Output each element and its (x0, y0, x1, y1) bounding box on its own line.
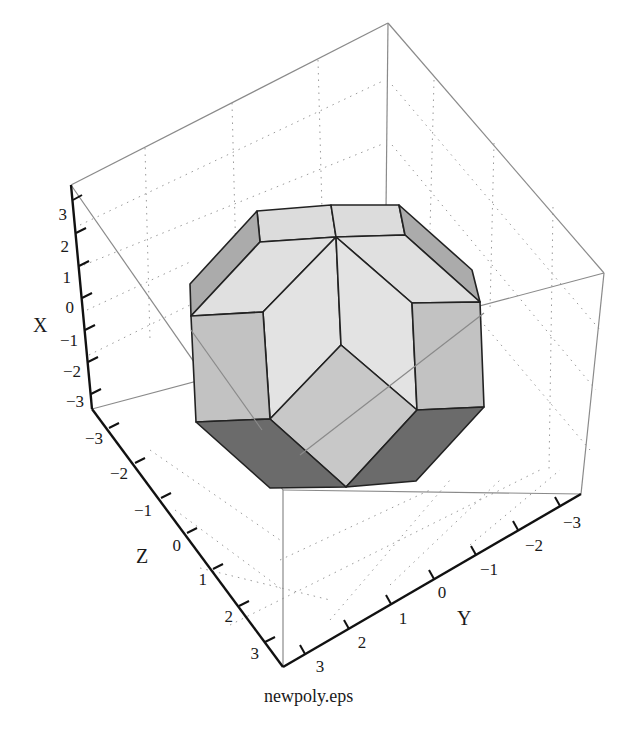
face-top-left (257, 205, 336, 242)
x-tick-label: −3 (66, 392, 84, 411)
face-left-square (191, 312, 270, 422)
face-right-square (412, 302, 484, 410)
x-tick-label: 3 (59, 205, 68, 224)
z-tick-label: 1 (199, 570, 208, 589)
z-tick-label: 0 (173, 536, 182, 555)
figure-caption: newpoly.eps (264, 686, 353, 706)
x-axis-label: X (33, 314, 48, 336)
z-tick-label: 2 (225, 607, 234, 626)
y-tick-label: 2 (358, 633, 367, 652)
z-axis-label: Z (136, 545, 148, 567)
y-tick-label: −3 (563, 513, 581, 532)
z-tick-label: 3 (251, 644, 260, 663)
face-top-right (331, 205, 405, 237)
polyhedron-plot: 3 2 1 0 −1 −2 −3 X −3 −2 −1 0 1 2 3 Z (0, 0, 625, 732)
x-axis: 3 2 1 0 −1 −2 −3 X (33, 185, 101, 411)
y-axis: 3 2 1 0 −1 −2 −3 Y (283, 494, 581, 676)
x-tick-label: −1 (60, 331, 78, 350)
y-tick-label: −1 (480, 560, 498, 579)
y-tick-label: 1 (399, 609, 408, 628)
z-tick-label: −1 (134, 501, 152, 520)
z-tick-label: −2 (110, 464, 128, 483)
z-tick-label: −3 (85, 429, 103, 448)
x-tick-label: 1 (63, 268, 72, 287)
x-tick-label: −2 (63, 362, 81, 381)
y-tick-label: −2 (525, 536, 543, 555)
y-tick-label: 0 (438, 583, 447, 602)
x-tick-label: 0 (66, 298, 75, 317)
x-tick-label: 2 (61, 237, 70, 256)
y-tick-label: 3 (316, 657, 325, 676)
y-axis-label: Y (457, 607, 471, 629)
